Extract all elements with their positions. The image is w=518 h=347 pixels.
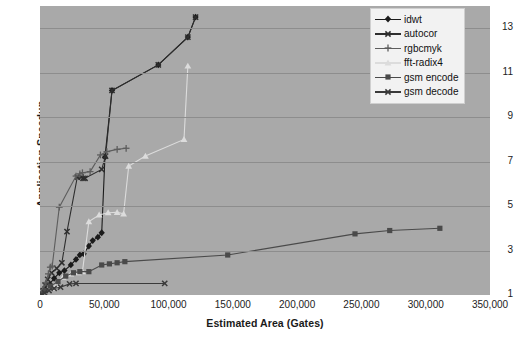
triangle-marker-icon — [375, 56, 401, 70]
plus-marker-icon — [375, 41, 401, 55]
legend-item-gsm-encode[interactable]: gsm encode — [375, 70, 458, 85]
legend-item-idwt[interactable]: idwt — [375, 12, 458, 27]
gridline — [40, 162, 490, 163]
legend-label: fft-radix4 — [401, 57, 443, 68]
series-autocor — [40, 15, 198, 295]
legend-label: idwt — [401, 14, 422, 25]
chart-legend: idwtautocorrgbcmykfft-radix4gsm encodegs… — [370, 8, 465, 104]
series-gsm-encode — [40, 226, 442, 295]
legend-label: rgbcmyk — [401, 43, 442, 54]
legend-item-autocor[interactable]: autocor — [375, 27, 458, 42]
diamond-marker-icon — [375, 12, 401, 26]
square-marker-icon — [375, 70, 401, 84]
legend-label: autocor — [401, 28, 437, 39]
x-tick-label: 350,000 — [445, 299, 518, 310]
legend-item-rgbcmyk[interactable]: rgbcmyk — [375, 41, 458, 56]
gridline — [40, 206, 490, 207]
x-axis-label: Estimated Area (Gates) — [40, 317, 490, 329]
legend-label: gsm encode — [401, 72, 458, 83]
gridline — [40, 251, 490, 252]
legend-label: gsm decode — [401, 86, 458, 97]
x-marker-icon — [375, 85, 401, 99]
x-marker-icon — [375, 27, 401, 41]
legend-item-gsm-decode[interactable]: gsm decode — [375, 85, 458, 100]
gridline — [40, 117, 490, 118]
legend-item-fft-radix4[interactable]: fft-radix4 — [375, 56, 458, 71]
